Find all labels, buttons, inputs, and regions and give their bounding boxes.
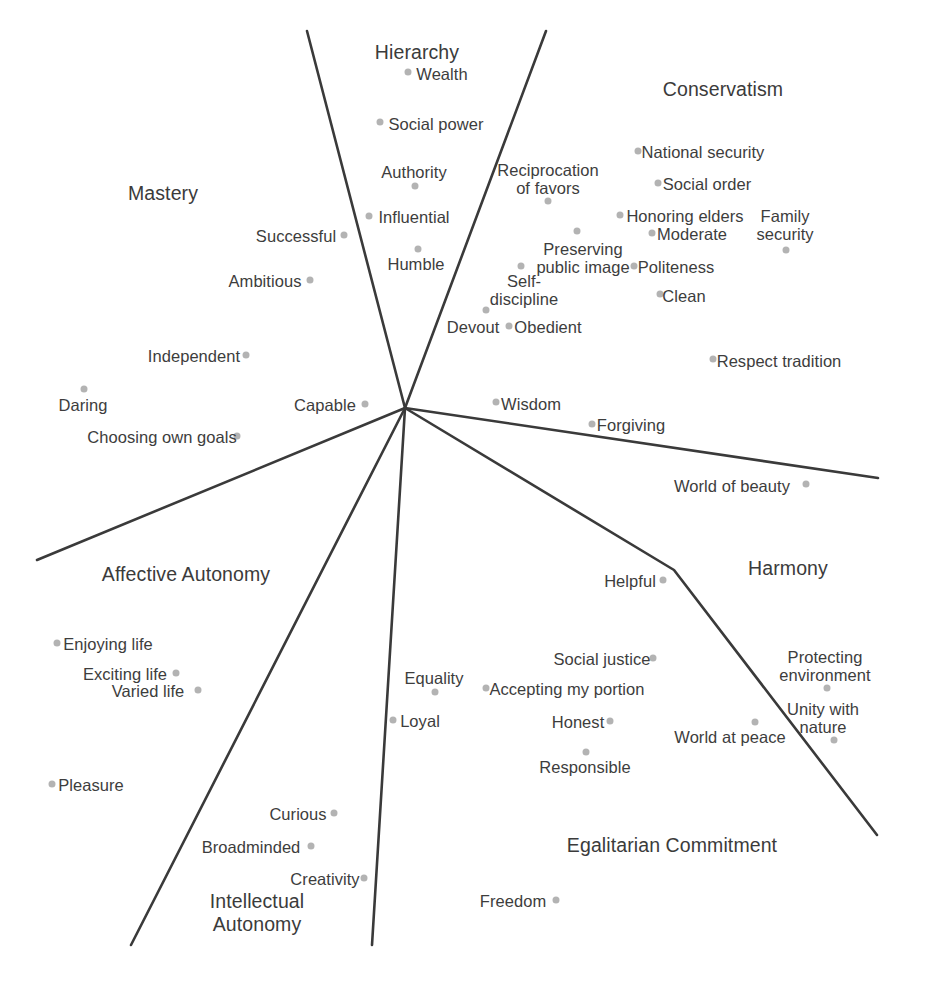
value-dot-pleasure bbox=[49, 781, 56, 788]
value-dot-obedient bbox=[506, 323, 513, 330]
value-dot-family-security bbox=[783, 247, 790, 254]
value-dot-curious bbox=[331, 810, 338, 817]
region-label-conservatism: Conservatism bbox=[663, 78, 783, 101]
value-label-honest: Honest bbox=[552, 713, 605, 731]
value-dot-devout bbox=[483, 307, 490, 314]
harmony-egalitarian-divider bbox=[405, 408, 877, 835]
value-label-devout: Devout bbox=[447, 318, 500, 336]
value-label-humble: Humble bbox=[387, 255, 444, 273]
value-dot-moderate bbox=[649, 230, 656, 237]
value-label-varied-life: Varied life bbox=[112, 682, 185, 700]
value-label-daring: Daring bbox=[59, 396, 108, 414]
value-dot-social-order bbox=[655, 180, 662, 187]
value-dot-preserving-public-image bbox=[574, 228, 581, 235]
value-label-social-justice: Social justice bbox=[554, 650, 651, 668]
value-dot-helpful bbox=[660, 577, 667, 584]
value-label-preserving-public-image: Preserving public image bbox=[536, 240, 629, 276]
value-dot-protecting-environment bbox=[824, 685, 831, 692]
value-map-figure: HierarchyConservatismMasteryAffective Au… bbox=[0, 0, 926, 982]
value-dot-social-power bbox=[377, 119, 384, 126]
value-label-creativity: Creativity bbox=[290, 870, 359, 888]
value-label-protecting-environment: Protecting environment bbox=[779, 648, 870, 684]
value-dot-respect-tradition bbox=[710, 356, 717, 363]
value-label-respect-tradition: Respect tradition bbox=[717, 352, 842, 370]
value-label-enjoying-life: Enjoying life bbox=[63, 635, 153, 653]
value-label-social-power: Social power bbox=[388, 115, 483, 133]
value-label-clean: Clean bbox=[662, 287, 705, 305]
value-dot-equality bbox=[432, 689, 439, 696]
region-label-egalitarian-commitment: Egalitarian Commitment bbox=[567, 834, 777, 857]
value-label-loyal: Loyal bbox=[400, 712, 440, 730]
intellectual-affective-divider bbox=[131, 408, 405, 945]
value-dot-exciting-life bbox=[173, 670, 180, 677]
value-dot-authority bbox=[412, 183, 419, 190]
value-dot-enjoying-life bbox=[54, 640, 61, 647]
value-label-forgiving: Forgiving bbox=[597, 416, 665, 434]
value-dot-responsible bbox=[583, 749, 590, 756]
value-label-equality: Equality bbox=[404, 669, 463, 687]
region-label-intellectual-autonomy: Intellectual Autonomy bbox=[210, 890, 304, 935]
value-label-world-at-peace: World at peace bbox=[674, 728, 785, 746]
value-dot-influential bbox=[366, 213, 373, 220]
value-label-broadminded: Broadminded bbox=[202, 838, 301, 856]
value-dot-ambitious bbox=[307, 277, 314, 284]
value-dot-wisdom bbox=[493, 399, 500, 406]
value-dot-world-at-peace bbox=[752, 719, 759, 726]
value-label-obedient: Obedient bbox=[514, 318, 581, 336]
value-dot-social-justice bbox=[650, 655, 657, 662]
value-label-responsible: Responsible bbox=[539, 758, 630, 776]
value-label-unity-with-nature: Unity with nature bbox=[787, 700, 859, 736]
value-label-capable: Capable bbox=[294, 396, 356, 414]
value-dot-varied-life bbox=[195, 687, 202, 694]
value-dot-honest bbox=[607, 718, 614, 725]
egalitarian-intellectual-divider bbox=[372, 408, 405, 945]
value-dot-freedom bbox=[553, 897, 560, 904]
value-label-family-security: Family security bbox=[756, 207, 813, 243]
value-label-national-security: National security bbox=[642, 143, 765, 161]
value-label-curious: Curious bbox=[269, 805, 326, 823]
value-label-freedom: Freedom bbox=[480, 892, 546, 910]
value-label-reciprocation-of-favors: Reciprocation of favors bbox=[497, 161, 599, 197]
value-label-wealth: Wealth bbox=[416, 65, 467, 83]
value-dot-creativity bbox=[361, 875, 368, 882]
value-dot-wealth bbox=[405, 69, 412, 76]
value-dot-world-of-beauty bbox=[803, 481, 810, 488]
value-label-choosing-own-goals: Choosing own goals bbox=[87, 428, 237, 446]
value-dot-national-security bbox=[635, 148, 642, 155]
value-label-world-of-beauty: World of beauty bbox=[674, 477, 790, 495]
value-dot-self-discipline bbox=[518, 263, 525, 270]
region-label-hierarchy: Hierarchy bbox=[375, 41, 459, 64]
value-label-politeness: Politeness bbox=[638, 258, 715, 276]
value-label-exciting-life: Exciting life bbox=[83, 665, 167, 683]
value-dot-forgiving bbox=[589, 421, 596, 428]
value-label-authority: Authority bbox=[381, 163, 447, 181]
value-label-influential: Influential bbox=[378, 208, 449, 226]
value-label-ambitious: Ambitious bbox=[229, 272, 302, 290]
value-label-social-order: Social order bbox=[663, 175, 752, 193]
value-dot-broadminded bbox=[308, 843, 315, 850]
value-dot-politeness bbox=[631, 263, 638, 270]
value-label-honoring-elders: Honoring elders bbox=[626, 207, 743, 225]
value-label-moderate: Moderate bbox=[657, 225, 727, 243]
value-label-pleasure: Pleasure bbox=[58, 776, 124, 794]
value-dot-honoring-elders bbox=[617, 212, 624, 219]
value-dot-daring bbox=[81, 386, 88, 393]
region-label-mastery: Mastery bbox=[128, 182, 198, 205]
value-dot-capable bbox=[362, 401, 369, 408]
value-dot-successful bbox=[341, 232, 348, 239]
value-label-accepting-my-portion: Accepting my portion bbox=[489, 680, 644, 698]
value-dot-loyal bbox=[390, 717, 397, 724]
value-dot-accepting-my-portion bbox=[483, 685, 490, 692]
value-dot-independent bbox=[243, 352, 250, 359]
value-label-wisdom: Wisdom bbox=[501, 395, 561, 413]
value-dot-reciprocation-of-favors bbox=[545, 198, 552, 205]
region-label-harmony: Harmony bbox=[748, 557, 828, 580]
value-label-helpful: Helpful bbox=[604, 572, 656, 590]
value-label-self-discipline: Self- discipline bbox=[490, 272, 558, 308]
value-dot-unity-with-nature bbox=[831, 737, 838, 744]
region-label-affective-autonomy: Affective Autonomy bbox=[102, 563, 270, 586]
value-dot-humble bbox=[415, 246, 422, 253]
value-label-independent: Independent bbox=[148, 347, 240, 365]
value-label-successful: Successful bbox=[256, 227, 336, 245]
